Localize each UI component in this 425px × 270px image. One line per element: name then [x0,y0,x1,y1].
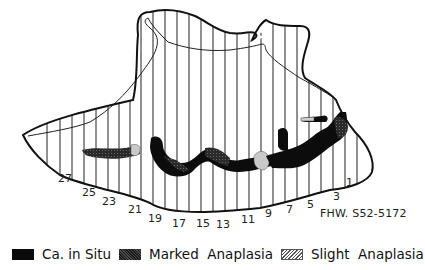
legend-item-ca-in-situ: Ca. in Situ [12,246,111,262]
section-number: 7 [286,204,293,215]
section-number: 3 [333,191,340,202]
legend-label: Ca. in Situ [42,246,111,262]
slight-anaplasia-swatch [281,249,303,260]
specimen-id: FHW. S52-5172 [320,207,407,220]
lesion-band [82,112,348,177]
section-number: 13 [216,219,230,230]
legend-label: Marked Anaplasia [149,246,273,262]
ca-in-situ-swatch [12,249,34,260]
legend-item-slight-anaplasia: Slight Anaplasia [281,246,424,262]
marked-anaplasia-swatch [119,249,141,260]
section-number: 5 [307,199,314,210]
section-number: 21 [128,204,142,215]
section-number: 15 [196,218,210,229]
section-number: 1 [346,177,353,188]
legend-item-marked-anaplasia: Marked Anaplasia [119,246,273,262]
section-number: 17 [172,218,186,229]
legend: Ca. in Situ Marked Anaplasia Slight Anap… [12,246,425,262]
specimen-outline [23,10,373,212]
section-number: 27 [58,173,72,184]
cervix-section-map [0,0,425,230]
section-number: 9 [265,208,272,219]
section-number: 25 [82,187,96,198]
section-number: 19 [148,213,162,224]
slight-anaplasia-region [131,144,140,155]
section-number: 23 [102,196,116,207]
ca-in-situ-region [278,128,288,151]
section-number: 11 [241,214,255,225]
canal-line [28,18,337,136]
legend-label: Slight Anaplasia [311,246,424,262]
slight-anaplasia-region [301,117,314,121]
